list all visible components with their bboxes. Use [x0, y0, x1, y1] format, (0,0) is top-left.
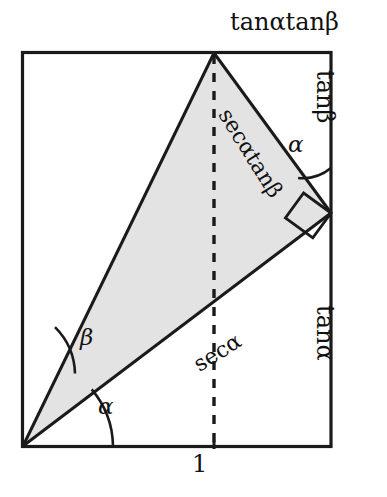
label-right-upper-edge: tanβ [313, 70, 337, 123]
label-angle-alpha-origin: α [98, 395, 114, 418]
label-base-segment: 1 [192, 452, 207, 476]
label-top-edge: tanαtanβ [230, 10, 339, 34]
label-angle-alpha-right: α [288, 133, 304, 156]
label-right-lower-edge: tanα [313, 305, 337, 361]
label-angle-beta-origin: β [80, 326, 93, 349]
